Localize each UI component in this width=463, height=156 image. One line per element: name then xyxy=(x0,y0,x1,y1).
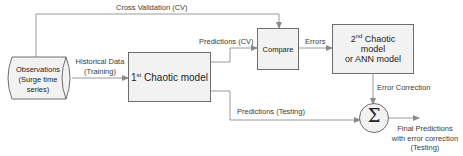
second-model-label: 2nd Chaotic model or ANN model xyxy=(345,34,401,64)
first-model-label: 1st Chaotic model xyxy=(131,72,208,83)
observations-line2: (Surge time xyxy=(6,75,70,85)
second-chaotic-model-box: 2nd Chaotic model or ANN model xyxy=(332,24,414,74)
observations-line3: series) xyxy=(6,85,70,95)
observations-node: Observations (Surge time series) xyxy=(6,65,70,95)
predictions-cv-label: Predictions (CV) xyxy=(199,38,254,46)
predictions-cv-connector xyxy=(210,48,257,62)
final-predictions-label: Final Predictions with error correction … xyxy=(387,124,463,153)
cross-validation-label: Cross Validation (CV) xyxy=(116,4,188,12)
historical-data-label: Historical Data (Training) xyxy=(72,57,128,77)
cross-validation-connector xyxy=(36,14,279,57)
predictions-testing-label: Predictions (Testing) xyxy=(237,108,305,116)
sum-symbol: Σ xyxy=(362,107,386,125)
errors-label: Errors xyxy=(305,38,325,46)
first-chaotic-model-box: 1st Chaotic model xyxy=(128,52,211,102)
observations-line1: Observations xyxy=(6,65,70,75)
compare-box: Compare xyxy=(257,28,299,70)
error-correction-label: Error Correction xyxy=(377,84,430,92)
compare-label: Compare xyxy=(263,45,294,54)
